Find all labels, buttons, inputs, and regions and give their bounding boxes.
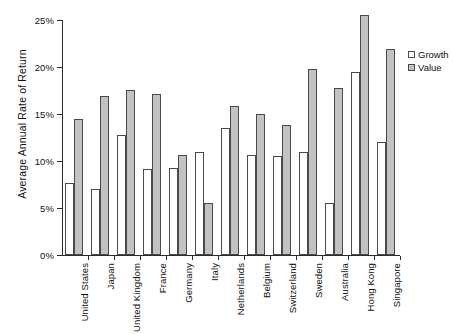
legend-label-growth: Growth <box>418 50 449 60</box>
x-axis-tick <box>140 256 141 260</box>
bar-growth-united-states <box>65 183 74 255</box>
y-axis-tick <box>57 20 62 21</box>
x-axis-tick <box>166 256 167 260</box>
bar-growth-belgium <box>247 155 256 255</box>
x-axis-tick <box>400 256 401 260</box>
chart-legend: Growth Value <box>408 48 449 74</box>
bar-value-united-kingdom <box>126 90 135 255</box>
y-axis-tick-label: 5% <box>40 203 54 214</box>
y-axis-tick-label: 25% <box>35 15 54 26</box>
y-axis-line <box>62 20 63 256</box>
bar-chart: Average Annual Rate of Return 0%5%10%15%… <box>0 0 453 334</box>
x-axis-label-france: France <box>157 263 168 293</box>
bar-value-australia <box>334 88 343 255</box>
bar-growth-france <box>143 169 152 255</box>
x-axis-tick <box>270 256 271 260</box>
legend-label-value: Value <box>418 63 442 73</box>
bar-value-france <box>152 94 161 255</box>
bar-growth-singapore <box>377 142 386 255</box>
x-axis-tick <box>218 256 219 260</box>
bar-value-united-states <box>74 119 83 255</box>
bar-growth-germany <box>169 168 178 255</box>
x-axis-label-germany: Germany <box>183 263 194 303</box>
x-axis-label-switzerland: Switzerland <box>287 263 298 313</box>
bar-value-netherlands <box>230 106 239 255</box>
bar-value-italy <box>204 203 213 255</box>
bar-value-switzerland <box>282 125 291 255</box>
legend-swatch-growth-icon <box>408 51 415 58</box>
bar-value-sweden <box>308 69 317 255</box>
y-axis-tick <box>57 208 62 209</box>
x-axis-label-italy: Italy <box>209 263 220 281</box>
y-axis-tick <box>57 114 62 115</box>
x-axis-tick <box>114 256 115 260</box>
x-axis-tick <box>192 256 193 260</box>
y-axis-tick-label: 0% <box>40 250 54 261</box>
bar-value-japan <box>100 96 109 255</box>
y-axis-tick-label: 15% <box>35 109 54 120</box>
x-axis-tick <box>322 256 323 260</box>
x-axis-tick <box>296 256 297 260</box>
x-axis-label-united-kingdom: United Kingdom <box>131 263 142 332</box>
x-axis-line <box>62 255 400 256</box>
y-axis-title: Average Annual Rate of Return <box>16 14 28 234</box>
bar-value-germany <box>178 155 187 255</box>
bar-growth-japan <box>91 189 100 255</box>
bar-growth-sweden <box>299 152 308 255</box>
x-axis-label-united-states: United States <box>79 263 90 321</box>
legend-swatch-value-icon <box>408 64 415 71</box>
bar-value-singapore <box>386 49 395 255</box>
bar-growth-italy <box>195 152 204 255</box>
bar-growth-netherlands <box>221 128 230 255</box>
bar-growth-switzerland <box>273 156 282 255</box>
x-axis-tick <box>244 256 245 260</box>
x-axis-label-australia: Australia <box>339 263 350 301</box>
x-axis-label-belgium: Belgium <box>261 263 272 298</box>
bar-value-belgium <box>256 114 265 255</box>
y-axis-tick-label: 10% <box>35 156 54 167</box>
x-axis-tick <box>374 256 375 260</box>
y-axis-tick <box>57 67 62 68</box>
x-axis-label-sweden: Sweden <box>313 263 324 298</box>
y-axis-tick-label: 20% <box>35 62 54 73</box>
bar-growth-australia <box>325 203 334 255</box>
x-axis-label-singapore: Singapore <box>391 263 402 307</box>
legend-item-growth: Growth <box>408 48 449 61</box>
x-axis-tick <box>348 256 349 260</box>
legend-item-value: Value <box>408 61 449 74</box>
bar-growth-hong-kong <box>351 72 360 255</box>
y-axis-tick <box>57 255 62 256</box>
bar-value-hong-kong <box>360 15 369 255</box>
x-axis-tick <box>88 256 89 260</box>
x-axis-label-japan: Japan <box>105 263 116 289</box>
plot-area: 0%5%10%15%20%25% United StatesJapanUnite… <box>62 20 400 256</box>
x-axis-label-hong-kong: Hong Kong <box>365 263 376 311</box>
bar-growth-united-kingdom <box>117 135 126 255</box>
x-axis-label-netherlands: Netherlands <box>235 263 246 315</box>
y-axis-tick <box>57 161 62 162</box>
